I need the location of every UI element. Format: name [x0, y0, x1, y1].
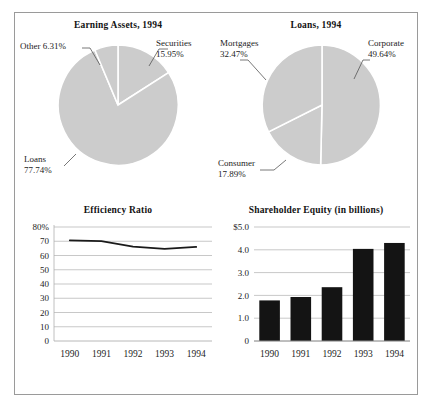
- efficiency-plot: 01020304050607080%19901991199219931994: [20, 219, 216, 379]
- equity-bar: [322, 287, 343, 341]
- panel-loans: Loans, 1994 Mortgages 32.47% Corporate: [218, 18, 414, 198]
- efficiency-ytick-label: 70: [40, 236, 50, 246]
- label-other: Other 6.31%: [20, 41, 66, 52]
- efficiency-ytick-label: 80%: [33, 222, 50, 232]
- equity-ytick-label: $5.0: [233, 222, 249, 232]
- loans-title: Loans, 1994: [218, 20, 414, 30]
- equity-ytick-label: 4.0: [238, 245, 250, 255]
- equity-ytick-label: 0: [245, 336, 250, 346]
- loans-pie-svg: [260, 43, 384, 167]
- panel-efficiency: Efficiency Ratio 01020304050607080%19901…: [20, 205, 216, 390]
- equity-xtick-label: 1991: [291, 349, 310, 359]
- label-corporate-name: Corporate: [368, 38, 404, 49]
- equity-bar: [291, 297, 312, 341]
- efficiency-xtick-label: 1994: [187, 349, 206, 359]
- label-securities-name: Securities: [156, 38, 192, 49]
- label-corporate: Corporate 49.64%: [368, 38, 404, 59]
- loans-pie: [260, 43, 384, 167]
- efficiency-xtick-label: 1990: [60, 349, 79, 359]
- figure-root: Earning Assets, 1994 Other 6.31% S: [0, 0, 434, 413]
- equity-xtick-label: 1994: [385, 349, 404, 359]
- efficiency-ytick-label: 30: [40, 293, 50, 303]
- equity-ytick-label: 3.0: [238, 268, 250, 278]
- label-corporate-value: 49.64%: [368, 49, 404, 60]
- equity-ytick-label: 2.0: [238, 291, 250, 301]
- efficiency-ytick-label: 60: [40, 251, 50, 261]
- efficiency-ytick-label: 50: [40, 265, 50, 275]
- equity-ytick-label: 1.0: [238, 313, 250, 323]
- equity-plot: 01.02.03.04.0$5.019901991199219931994: [218, 219, 414, 379]
- label-loans-value: 77.74%: [24, 165, 52, 176]
- efficiency-ytick-label: 40: [40, 279, 50, 289]
- label-mortgages-value: 32.47%: [220, 49, 259, 60]
- panel-earning-assets: Earning Assets, 1994 Other 6.31% S: [20, 18, 216, 198]
- label-consumer-name: Consumer: [218, 158, 255, 169]
- label-mortgages-name: Mortgages: [220, 38, 259, 49]
- equity-bar: [353, 249, 374, 341]
- efficiency-title: Efficiency Ratio: [20, 205, 216, 215]
- efficiency-xtick-label: 1991: [92, 349, 111, 359]
- equity-title: Shareholder Equity (in billions): [218, 205, 414, 215]
- label-securities-value: 15.95%: [156, 49, 192, 60]
- efficiency-ytick-label: 20: [40, 308, 50, 318]
- efficiency-plot-svg: 01020304050607080%19901991199219931994: [20, 219, 216, 379]
- efficiency-ytick-label: 10: [40, 322, 50, 332]
- label-mortgages: Mortgages 32.47%: [220, 38, 259, 59]
- efficiency-line: [70, 240, 196, 249]
- label-loans-name: Loans: [24, 154, 52, 165]
- earning-assets-title: Earning Assets, 1994: [20, 20, 216, 30]
- label-loans: Loans 77.74%: [24, 154, 52, 175]
- pie-slice-corporate: [321, 45, 381, 165]
- equity-xtick-label: 1990: [260, 349, 279, 359]
- equity-xtick-label: 1992: [323, 349, 342, 359]
- earning-assets-pie-svg: [56, 43, 180, 167]
- earning-assets-pie: [56, 43, 180, 167]
- label-securities: Securities 15.95%: [156, 38, 192, 59]
- panel-equity: Shareholder Equity (in billions) 01.02.0…: [218, 205, 414, 390]
- label-consumer-value: 17.89%: [218, 169, 255, 180]
- equity-bar: [384, 243, 405, 341]
- efficiency-xtick-label: 1992: [124, 349, 143, 359]
- label-consumer: Consumer 17.89%: [218, 158, 255, 179]
- equity-xtick-label: 1993: [354, 349, 373, 359]
- label-other-text: Other 6.31%: [20, 41, 66, 51]
- efficiency-xtick-label: 1993: [155, 349, 174, 359]
- equity-plot-svg: 01.02.03.04.0$5.019901991199219931994: [218, 219, 414, 379]
- equity-bar: [259, 300, 280, 341]
- efficiency-ytick-label: 0: [45, 336, 50, 346]
